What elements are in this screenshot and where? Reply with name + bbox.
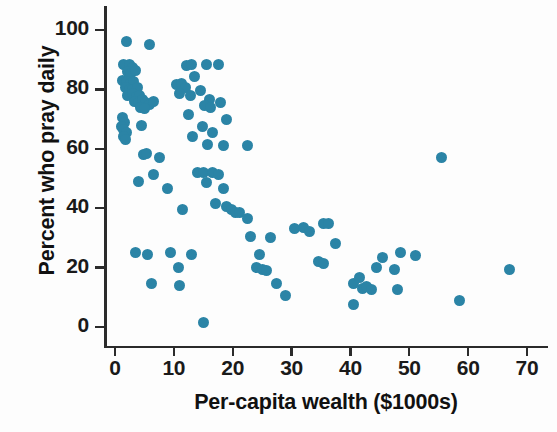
data-point (165, 247, 176, 258)
data-point (173, 262, 184, 273)
x-tick (467, 347, 469, 356)
data-point (141, 148, 152, 159)
x-tick (526, 347, 528, 356)
data-point (389, 264, 400, 275)
x-tick (173, 347, 175, 356)
data-point (213, 59, 224, 70)
data-point (130, 247, 141, 258)
data-point (189, 71, 200, 82)
data-point (183, 109, 194, 120)
data-point (261, 265, 272, 276)
data-point (154, 152, 165, 163)
x-tick-label: 30 (270, 356, 314, 380)
data-point (410, 250, 421, 261)
x-tick-label: 20 (211, 356, 255, 380)
data-point (323, 218, 334, 229)
data-point (136, 120, 147, 131)
data-point (366, 284, 377, 295)
data-point (197, 121, 208, 132)
data-point (133, 176, 144, 187)
y-tick (95, 207, 104, 209)
data-point (215, 97, 226, 108)
plot-area (104, 6, 548, 347)
data-point (195, 85, 206, 96)
data-point (245, 231, 256, 242)
data-point (218, 140, 229, 151)
data-point (139, 103, 150, 114)
y-tick (95, 29, 104, 31)
data-point (218, 183, 229, 194)
y-tick-label: 0 (31, 313, 89, 337)
data-point (377, 252, 388, 263)
scatter-plot-figure: 020406080100 010203040506070 Percent who… (0, 0, 557, 432)
x-tick-label: 40 (328, 356, 372, 380)
y-axis-title: Percent who pray daily (35, 26, 60, 296)
y-tick (95, 326, 104, 328)
x-tick-label: 10 (152, 356, 196, 380)
data-point (242, 140, 253, 151)
data-point (348, 299, 359, 310)
data-point (213, 169, 224, 180)
x-axis-title: Per-capita wealth ($1000s) (104, 390, 548, 415)
data-point (146, 278, 157, 289)
data-point (120, 134, 131, 145)
data-point (210, 198, 221, 209)
data-point (242, 213, 253, 224)
x-tick-label: 50 (387, 356, 431, 380)
data-point (304, 226, 315, 237)
data-point (254, 249, 265, 260)
data-point (177, 204, 188, 215)
x-tick (114, 347, 116, 356)
data-point (221, 114, 232, 125)
data-point (436, 152, 447, 163)
data-point (271, 278, 282, 289)
x-tick (290, 347, 292, 356)
data-point (371, 262, 382, 273)
x-tick (349, 347, 351, 356)
data-point (148, 169, 159, 180)
data-point (205, 102, 216, 113)
x-tick-label: 60 (446, 356, 490, 380)
data-point (162, 183, 173, 194)
data-point (121, 36, 132, 47)
data-point (280, 290, 291, 301)
y-tick (95, 88, 104, 90)
data-point (395, 247, 406, 258)
data-point (174, 88, 185, 99)
data-point (330, 238, 341, 249)
data-point (186, 59, 197, 70)
x-tick-label: 0 (93, 356, 137, 380)
data-point (187, 131, 198, 142)
data-point (130, 65, 141, 76)
data-point (454, 295, 465, 306)
data-point (392, 284, 403, 295)
data-point (265, 232, 276, 243)
data-point (174, 280, 185, 291)
x-tick (408, 347, 410, 356)
data-point (198, 317, 209, 328)
data-point (207, 127, 218, 138)
data-point (201, 177, 212, 188)
x-tick (232, 347, 234, 356)
y-tick (95, 148, 104, 150)
data-point (504, 264, 515, 275)
data-point (142, 249, 153, 260)
data-point (186, 249, 197, 260)
data-point (144, 39, 155, 50)
data-point (201, 59, 212, 70)
data-point (318, 258, 329, 269)
y-tick (95, 266, 104, 268)
data-point (202, 139, 213, 150)
x-tick-label: 70 (505, 356, 549, 380)
